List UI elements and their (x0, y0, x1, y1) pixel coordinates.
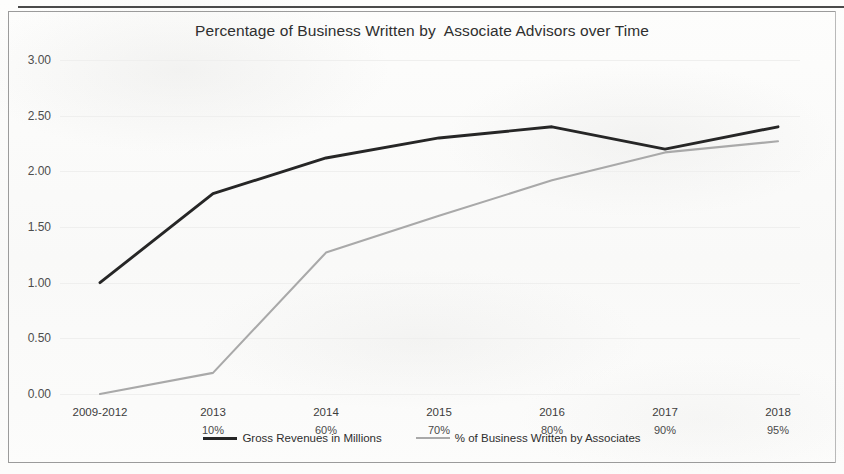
legend-line-swatch-icon (416, 437, 450, 439)
series-line (100, 141, 778, 394)
y-axis-tick-label: 0.50 (28, 331, 51, 345)
plot-area: 3.002.502.001.501.000.500.00 (60, 60, 800, 394)
chart-legend: Gross Revenues in Millions% of Business … (0, 432, 844, 444)
legend-item[interactable]: Gross Revenues in Millions (203, 432, 381, 444)
chart-border-right-edge (835, 11, 836, 463)
legend-line-swatch-icon (203, 437, 237, 440)
x-axis-year-label: 2014 (313, 406, 339, 418)
x-axis-year-label: 2009-2012 (73, 406, 128, 418)
gridline (60, 394, 800, 395)
chart-page: Percentage of Business Written by Associ… (0, 0, 844, 474)
y-axis-tick-label: 3.00 (28, 53, 51, 67)
x-axis-year-label: 2018 (765, 406, 791, 418)
series-lines-group (60, 60, 800, 394)
y-axis-tick-label: 2.00 (28, 164, 51, 178)
chart-title: Percentage of Business Written by Associ… (0, 22, 844, 40)
x-axis-year-label: 2017 (652, 406, 678, 418)
legend-item[interactable]: % of Business Written by Associates (416, 432, 641, 444)
y-axis-tick-label: 2.50 (28, 109, 51, 123)
y-axis-tick-label: 1.50 (28, 220, 51, 234)
x-axis-year-label: 2016 (539, 406, 565, 418)
x-axis-year-label: 2013 (200, 406, 226, 418)
series-line (100, 127, 778, 283)
x-axis-tick-label: 2009-2012 (40, 404, 160, 422)
legend-item-label: % of Business Written by Associates (455, 432, 641, 444)
y-axis-tick-label: 0.00 (28, 387, 51, 401)
legend-item-label: Gross Revenues in Millions (242, 432, 381, 444)
y-axis-tick-label: 1.00 (28, 276, 51, 290)
page-top-rule (18, 6, 844, 8)
x-axis-year-label: 2015 (426, 406, 452, 418)
